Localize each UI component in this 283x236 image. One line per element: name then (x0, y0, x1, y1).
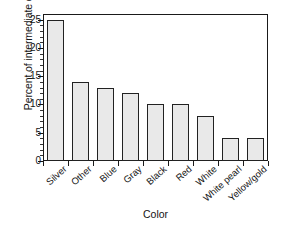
bar-black (147, 104, 164, 161)
x-axis-title: Color (43, 208, 268, 220)
bar-silver (47, 20, 64, 161)
bar-gray (122, 93, 139, 161)
bars-layer (43, 14, 268, 161)
bar-yellow-gold (247, 138, 264, 161)
bar-other (72, 82, 89, 161)
x-axis-category-labels: SilverOtherBlueGrayBlackRedWhiteWhite pe… (43, 164, 278, 210)
bar-white-pearl (222, 138, 239, 161)
bar-blue (97, 88, 114, 162)
bar-red (172, 104, 189, 161)
bar-chart: Percent of intermediate cars 0510152025 … (0, 0, 283, 236)
bar-white (197, 116, 214, 161)
